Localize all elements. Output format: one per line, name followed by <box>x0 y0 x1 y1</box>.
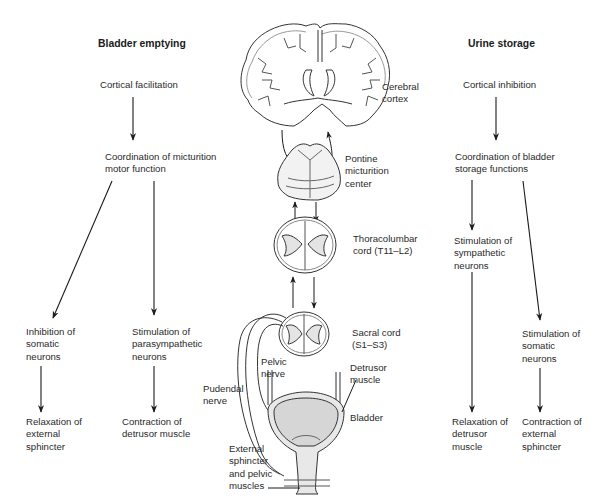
external-sphincter-label: External sphincter and pelvic muscles <box>229 443 272 493</box>
left-flow-arrows <box>41 97 154 412</box>
pelvic-nerve-label: Pelvic nerve <box>261 356 287 381</box>
cerebral-cortex-label: Cerebral cortex <box>382 81 419 106</box>
stimulation-sympathetic-label: Stimulation of sympathetic neurons <box>454 235 512 272</box>
contraction-external-sphincter-label: Contraction of external sphincter <box>522 416 582 453</box>
urine-storage-title: Urine storage <box>468 38 535 49</box>
relaxation-detrusor-label: Relaxation of detrusor muscle <box>452 416 508 453</box>
contraction-detrusor-label: Contraction of detrusor muscle <box>122 416 190 441</box>
sacral-cord-illustration <box>279 312 329 356</box>
pudendal-nerve-label: Pudendal nerve <box>203 383 244 408</box>
sacral-cord-label: Sacral cord (S1–S3) <box>352 327 401 352</box>
stimulation-parasympathetic-label: Stimulation of parasympathetic neurons <box>132 326 202 363</box>
bladder-illustration <box>268 392 344 494</box>
cerebral-cortex-illustration <box>241 24 390 126</box>
inhibition-somatic-neurons-label: Inhibition of somatic neurons <box>26 326 75 363</box>
bladder-label: Bladder <box>350 412 383 424</box>
bladder-emptying-title: Bladder emptying <box>98 38 186 49</box>
coordination-bladder-storage-label: Coordination of bladder storage function… <box>455 151 555 176</box>
cortical-facilitation-label: Cortical facilitation <box>100 79 178 91</box>
stimulation-somatic-neurons-label: Stimulation of somatic neurons <box>522 328 580 365</box>
pontine-micturition-center-label: Pontine micturition center <box>345 153 389 190</box>
pontine-micturition-center-illustration <box>278 144 341 200</box>
relaxation-external-sphincter-label: Relaxation of external sphincter <box>26 416 82 453</box>
detrusor-muscle-label: Detrusor muscle <box>350 362 387 387</box>
cortical-inhibition-label: Cortical inhibition <box>463 79 536 91</box>
thoracolumbar-cord-illustration <box>274 217 336 273</box>
thoracolumbar-cord-label: Thoracolumbar cord (T11–L2) <box>353 233 418 258</box>
coordination-micturition-label: Coordination of micturition motor functi… <box>105 151 216 176</box>
